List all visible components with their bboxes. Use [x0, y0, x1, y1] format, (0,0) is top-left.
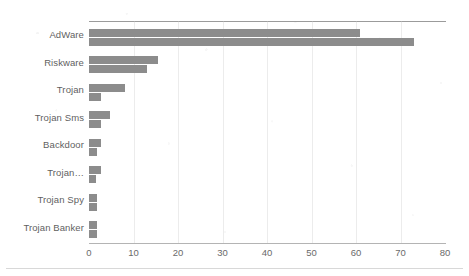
y-axis-label-adware: AdWare — [0, 30, 84, 40]
bar-adware-series-1 — [89, 29, 360, 37]
bar-trojan-sms-series-1 — [89, 111, 110, 119]
x-tick-10: 10 — [128, 248, 139, 258]
bar-riskware-series-1 — [89, 56, 158, 64]
x-tick-40: 40 — [262, 248, 273, 258]
bar-backdoor-series-2 — [89, 148, 97, 156]
bar-trojan-banker-series-1 — [89, 221, 97, 229]
grid-line-30 — [223, 21, 224, 243]
grid-line-70 — [401, 21, 402, 243]
bar-trojan-spy-series-2 — [89, 203, 97, 211]
grid-line-40 — [267, 21, 268, 243]
bar-trojan-series-2 — [89, 93, 101, 101]
bar-adware-series-2 — [89, 38, 414, 46]
bar-chart: AdWare Riskware Trojan Trojan Sms Backdo… — [0, 0, 469, 276]
bar-trojan-series-1 — [89, 166, 101, 174]
bar-trojan-spy-series-1 — [89, 194, 97, 202]
x-tick-0: 0 — [86, 248, 91, 258]
y-axis-label-riskware: Riskware — [0, 58, 84, 68]
figure-bottom-rule — [6, 268, 463, 269]
y-axis-label-trojan-other: Trojan… — [0, 168, 84, 178]
x-tick-30: 30 — [217, 248, 228, 258]
bar-riskware-series-2 — [89, 65, 147, 73]
x-tick-50: 50 — [306, 248, 317, 258]
y-axis-label-backdoor: Backdoor — [0, 140, 84, 150]
y-axis-category-labels: AdWare Riskware Trojan Trojan Sms Backdo… — [0, 0, 84, 276]
grid-line-60 — [356, 21, 357, 243]
y-axis-label-trojan-banker: Trojan Banker — [0, 223, 84, 233]
grid-line-20 — [178, 21, 179, 243]
bar-trojan-sms-series-2 — [89, 120, 101, 128]
x-tick-60: 60 — [351, 248, 362, 258]
grid-line-50 — [312, 21, 313, 243]
x-tick-70: 70 — [395, 248, 406, 258]
x-tick-80: 80 — [440, 248, 451, 258]
y-axis-label-trojan-sms: Trojan Sms — [0, 113, 84, 123]
y-axis-label-trojan: Trojan — [0, 85, 84, 95]
x-axis-rule — [89, 243, 446, 244]
x-tick-20: 20 — [173, 248, 184, 258]
bar-trojan-series-2 — [89, 175, 96, 183]
bar-trojan-series-1 — [89, 84, 125, 92]
y-axis-label-trojan-spy: Trojan Spy — [0, 195, 84, 205]
bar-trojan-banker-series-2 — [89, 230, 97, 238]
grid-line-10 — [134, 21, 135, 243]
plot-area — [89, 21, 445, 243]
bar-backdoor-series-1 — [89, 139, 101, 147]
